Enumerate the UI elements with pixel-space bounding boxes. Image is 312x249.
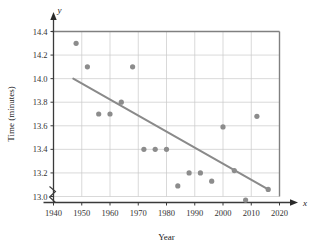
data-point — [119, 100, 124, 105]
x-tick-label: 1970 — [130, 208, 147, 218]
y-tick-label: 13.6 — [33, 121, 48, 131]
data-point — [187, 170, 192, 175]
x-tick-label: 1990 — [186, 208, 203, 218]
y-tick-label: 14.4 — [33, 27, 49, 37]
data-point — [74, 41, 79, 46]
x-tick-label: 1950 — [73, 208, 90, 218]
y-axis-letter: y — [57, 5, 62, 15]
x-tick-label: 1960 — [102, 208, 119, 218]
x-axis-arrow — [290, 199, 298, 205]
y-axis-arrow — [50, 12, 56, 20]
data-point — [209, 179, 214, 184]
x-tick-label: 2000 — [215, 208, 232, 218]
scatter-chart: 13.013.213.413.613.814.014.214.419401950… — [0, 0, 312, 249]
y-tick-label: 14.2 — [33, 50, 48, 60]
x-axis-title: Year — [158, 232, 175, 242]
data-point — [220, 124, 225, 129]
data-point — [175, 183, 180, 188]
y-axis-title: Time (minutes) — [6, 86, 16, 141]
data-point — [141, 147, 146, 152]
data-point — [232, 168, 237, 173]
data-point — [254, 114, 259, 119]
x-tick-label: 1940 — [45, 208, 62, 218]
y-tick-label: 13.2 — [33, 168, 48, 178]
grid-lines — [54, 32, 280, 197]
data-point — [153, 147, 158, 152]
data-point — [164, 147, 169, 152]
data-point — [130, 64, 135, 69]
data-point — [243, 197, 248, 202]
chart-canvas: 13.013.213.413.613.814.014.214.419401950… — [0, 0, 312, 249]
y-tick-label: 13.8 — [33, 97, 48, 107]
x-tick-label: 1980 — [158, 208, 175, 218]
y-tick-label: 14.0 — [33, 74, 48, 84]
x-tick-label: 2010 — [243, 208, 260, 218]
data-point — [85, 64, 90, 69]
y-tick-label: 13.0 — [33, 192, 48, 202]
data-point — [96, 111, 101, 116]
data-point — [198, 170, 203, 175]
data-point — [266, 187, 271, 192]
y-tick-label: 13.4 — [33, 144, 49, 154]
data-point — [107, 111, 112, 116]
x-axis-letter: x — [302, 198, 307, 208]
x-tick-label: 2020 — [271, 208, 288, 218]
